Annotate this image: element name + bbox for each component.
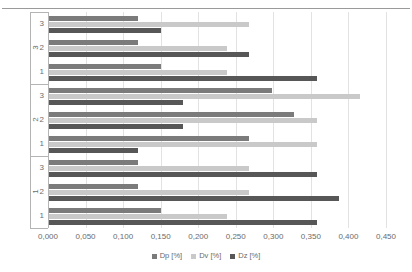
bar-3-1-dv [48, 70, 227, 75]
legend-item-dp[interactable]: Dp [%] [152, 252, 183, 260]
legend-label-dz: Dz [%] [238, 252, 260, 260]
bar-2-1-dv [48, 142, 317, 147]
bar-1-3-dz [48, 172, 317, 177]
bar-3-2-dz [48, 52, 249, 57]
subcategory-label-3-1: 1 [30, 67, 44, 76]
bar-3-3-dv [48, 22, 249, 27]
bar-2-1-dz [48, 148, 138, 153]
cropped-title-remnant [2, 0, 410, 7]
top-border-rule [2, 8, 410, 9]
x-tick-0000: 0,000 [28, 232, 68, 241]
x-tick-0350: 0,350 [291, 232, 331, 241]
bar-3-1-dp [48, 64, 161, 69]
legend-swatch-dp-icon [152, 254, 157, 259]
bar-2-3-dz [48, 100, 183, 105]
bar-3-3-dp [48, 16, 138, 21]
group-label-3: 3 [31, 41, 40, 55]
legend-item-dv[interactable]: Dv [%] [191, 252, 221, 260]
bar-1-3-dp [48, 160, 138, 165]
x-tick-0250: 0,250 [216, 232, 256, 241]
legend-label-dv: Dv [%] [199, 252, 221, 260]
subcategory-label-2-3: 3 [30, 91, 44, 100]
group-label-2: 2 [31, 113, 40, 127]
group-separator-tick [30, 156, 48, 157]
group-separator-tick [30, 84, 48, 85]
x-tick-0100: 0,100 [103, 232, 143, 241]
group-separator-tick [30, 12, 48, 13]
bar-2-3-dp [48, 88, 272, 93]
bar-chart: 321321321321 0,0000,0500,1000,1500,2000,… [0, 0, 412, 272]
plot-area [48, 12, 386, 228]
bar-2-1-dp [48, 136, 249, 141]
subcategory-label-3-3: 3 [30, 19, 44, 28]
bar-1-1-dp [48, 208, 161, 213]
subcategory-label-1-1: 1 [30, 211, 44, 220]
gridline-0450 [386, 12, 387, 228]
legend-swatch-dv-icon [191, 254, 196, 259]
bar-3-1-dz [48, 76, 317, 81]
legend-item-dz[interactable]: Dz [%] [230, 252, 260, 260]
bar-1-2-dv [48, 190, 249, 195]
x-tick-0400: 0,400 [328, 232, 368, 241]
x-tick-0050: 0,050 [66, 232, 106, 241]
bar-2-2-dp [48, 112, 294, 117]
bar-1-2-dp [48, 184, 138, 189]
bar-3-2-dp [48, 40, 138, 45]
category-axis-line [48, 12, 49, 228]
bar-3-2-dv [48, 46, 227, 51]
bar-2-2-dv [48, 118, 317, 123]
x-tick-0150: 0,150 [141, 232, 181, 241]
gridline-0400 [348, 12, 349, 228]
subcategory-label-1-3: 3 [30, 163, 44, 172]
chart-legend: Dp [%]Dv [%]Dz [%] [0, 252, 412, 260]
x-tick-0450: 0,450 [366, 232, 406, 241]
bar-1-1-dz [48, 220, 317, 225]
subcategory-label-2-1: 1 [30, 139, 44, 148]
x-tick-0300: 0,300 [253, 232, 293, 241]
bar-2-3-dv [48, 94, 360, 99]
group-separator-tick [30, 228, 48, 229]
x-tick-0200: 0,200 [178, 232, 218, 241]
bar-1-2-dz [48, 196, 339, 201]
group-label-1: 1 [31, 185, 40, 199]
bar-1-1-dv [48, 214, 227, 219]
bar-2-2-dz [48, 124, 183, 129]
bar-1-3-dv [48, 166, 249, 171]
legend-label-dp: Dp [%] [160, 252, 183, 260]
bar-3-3-dz [48, 28, 161, 33]
legend-swatch-dz-icon [230, 254, 235, 259]
